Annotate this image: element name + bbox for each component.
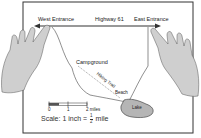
- left-hand: [1, 25, 50, 93]
- map-diagram: West Entrance Highway 61 East Entrance C…: [0, 0, 201, 138]
- arrow-right-icon: [155, 24, 161, 29]
- beach-label: Beach: [115, 91, 128, 96]
- scale-bar-filled: [49, 103, 59, 106]
- west-entrance-label: West Entrance: [38, 17, 74, 23]
- lake-label: Lake: [132, 106, 142, 111]
- scale-tick-label-2: 2 miles: [86, 108, 100, 113]
- scale-prefix: Scale: 1 inch =: [41, 115, 87, 122]
- highway-label: Highway 61: [95, 17, 124, 23]
- arrow-left-icon: [34, 24, 40, 29]
- string-right: [128, 27, 148, 103]
- scale-fraction: 1 2: [90, 114, 93, 124]
- scale-text: Scale: 1 inch = 1 2 mile: [41, 114, 108, 124]
- scale-suffix: mile: [96, 115, 109, 122]
- campground-label: Campground: [76, 60, 108, 66]
- east-entrance-label: East Entrance: [134, 17, 169, 23]
- scale-tick-label-1: 1: [67, 108, 70, 113]
- scale-tick-label-0: 0: [48, 108, 51, 113]
- scale-denominator: 2: [90, 120, 93, 125]
- right-hand: [151, 28, 199, 96]
- string-left: [52, 27, 72, 68]
